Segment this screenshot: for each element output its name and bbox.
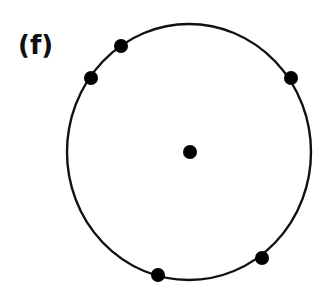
boundary-point [255, 251, 269, 265]
points-group [84, 39, 298, 282]
boundary-point [151, 268, 165, 282]
center-point [183, 145, 197, 159]
boundary-point [284, 71, 298, 85]
circle-diagram [0, 0, 330, 293]
boundary-point [84, 71, 98, 85]
boundary-point [114, 39, 128, 53]
